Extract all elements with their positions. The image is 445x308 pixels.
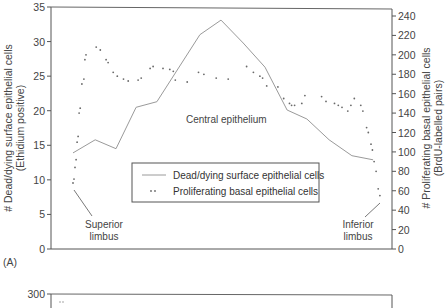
data-point — [246, 66, 248, 68]
data-point — [85, 54, 87, 56]
left-tick-label: 30 — [33, 36, 45, 48]
data-point — [81, 83, 83, 85]
right-axis-title-line2: (BrdU-labelled pairs) — [432, 80, 444, 176]
data-point — [373, 161, 375, 163]
data-point — [341, 106, 343, 108]
right-tick-label: 20 — [398, 224, 410, 236]
central-epithelium-label: Central epithelium — [186, 114, 267, 125]
data-point — [172, 70, 174, 72]
legend-dot-swatch — [150, 190, 152, 192]
data-point — [350, 104, 352, 106]
left-tick-label: 25 — [33, 70, 45, 82]
data-point — [370, 143, 372, 145]
superior-limbus-label-line2: limbus — [90, 231, 119, 242]
legend-dot-swatch — [154, 190, 156, 192]
data-point — [174, 79, 176, 81]
left-tick-label: 15 — [33, 139, 45, 151]
dead-dying-cells-line — [73, 20, 373, 160]
right-tick-label: 240 — [398, 10, 416, 22]
panel-b-tick-label-300: 300 — [27, 288, 45, 300]
data-point — [375, 170, 377, 172]
data-point — [77, 136, 79, 138]
right-tick-label: 0 — [398, 243, 404, 255]
right-tick-label: 140 — [398, 107, 416, 119]
data-point — [262, 77, 264, 79]
data-point — [266, 85, 268, 87]
panel-b-dot — [62, 301, 64, 303]
right-tick-label: 60 — [398, 185, 410, 197]
data-point — [353, 98, 355, 100]
data-point — [112, 71, 114, 73]
data-point — [169, 69, 171, 71]
left-axis-ticks: 05101520253035 — [33, 1, 51, 255]
data-point — [74, 167, 76, 169]
data-point — [84, 59, 86, 61]
data-point — [291, 104, 293, 106]
data-point — [203, 73, 205, 75]
panel-b-plot: 300 — [27, 288, 392, 308]
data-point — [289, 103, 291, 105]
data-point — [186, 81, 188, 83]
right-tick-label: 80 — [398, 165, 410, 177]
data-point — [95, 46, 97, 48]
data-point — [198, 71, 200, 73]
data-point — [107, 62, 109, 64]
data-point — [366, 127, 368, 129]
panel-label-a: (A) — [3, 256, 17, 268]
data-point — [253, 71, 255, 73]
data-point — [215, 77, 217, 79]
legend-line-label: Dead/dying surface epithelial cells — [173, 170, 324, 181]
left-tick-label: 5 — [39, 208, 45, 220]
data-point — [162, 68, 164, 70]
right-tick-label: 220 — [398, 29, 416, 41]
right-tick-label: 120 — [398, 127, 416, 139]
legend: Dead/dying surface epithelial cells Prol… — [132, 163, 324, 202]
right-axis-title-line1: # Proliferating basal epithelial cells — [420, 47, 432, 208]
left-axis-title-line2: (Ethidium positive) — [14, 85, 26, 171]
left-tick-label: 10 — [33, 174, 45, 186]
data-point — [116, 75, 118, 77]
data-point — [321, 96, 323, 98]
superior-limbus-label-line1: Superior — [85, 219, 123, 230]
data-point — [152, 66, 154, 68]
panel-b-top-frame — [51, 294, 392, 295]
data-point — [105, 59, 107, 61]
data-point — [99, 49, 101, 51]
data-point — [377, 188, 379, 190]
panel-b-dot — [59, 301, 61, 303]
left-tick-label: 20 — [33, 105, 45, 117]
data-point — [83, 78, 85, 80]
data-point — [137, 79, 139, 81]
data-point — [347, 110, 349, 112]
data-point — [73, 178, 75, 180]
data-point — [304, 95, 306, 97]
legend-dots-label: Proliferating basal epithelial cells — [173, 186, 318, 197]
data-point — [79, 107, 81, 109]
top-frame-line — [51, 7, 392, 9]
left-axis-title-line1: # Dead/dying surface epithelial cells — [2, 44, 14, 212]
data-point — [360, 104, 362, 106]
data-point — [140, 77, 142, 79]
left-tick-label: 35 — [33, 1, 45, 13]
data-point — [149, 68, 151, 70]
right-tick-label: 160 — [398, 88, 416, 100]
inferior-limbus-label-line1: Inferior — [342, 219, 374, 230]
data-point — [379, 195, 381, 197]
data-point — [75, 159, 77, 161]
inferior-limbus-label-line2: limbus — [344, 231, 373, 242]
data-point — [127, 80, 129, 82]
right-tick-label: 40 — [398, 204, 410, 216]
data-point — [325, 101, 327, 103]
chart-figure: 05101520253035 0204060801001201401601802… — [0, 0, 445, 308]
superior-limbus-pointer — [74, 190, 92, 216]
data-point — [78, 112, 80, 114]
right-tick-label: 200 — [398, 49, 416, 61]
left-tick-label: 0 — [39, 243, 45, 255]
data-point — [259, 75, 261, 77]
data-point — [301, 103, 303, 105]
data-point — [294, 104, 296, 106]
data-point — [337, 104, 339, 106]
inferior-limbus-pointer — [365, 203, 380, 217]
right-axis-ticks: 020406080100120140160180200220240 — [392, 10, 416, 255]
data-point — [283, 98, 285, 100]
